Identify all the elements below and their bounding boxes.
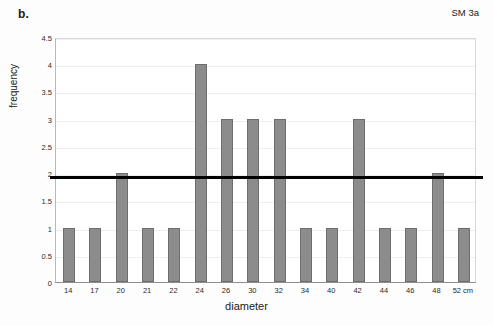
bar bbox=[221, 119, 233, 282]
x-tick-label: 34 bbox=[301, 286, 309, 295]
bar bbox=[458, 228, 470, 282]
x-tick-label: 22 bbox=[169, 286, 177, 295]
bar bbox=[300, 228, 312, 282]
panel-letter-label: b. bbox=[18, 7, 29, 21]
x-tick-label: 40 bbox=[327, 286, 335, 295]
x-tick-label: 44 bbox=[380, 286, 388, 295]
y-tick-label: 2.5 bbox=[16, 142, 52, 151]
bar bbox=[116, 173, 128, 282]
y-tick-label: 4 bbox=[16, 61, 52, 70]
series-annotation-label: SM 3a bbox=[452, 7, 479, 18]
y-tick-label: 3 bbox=[16, 115, 52, 124]
y-tick-label: 0 bbox=[16, 279, 52, 288]
x-tick-label: 26 bbox=[222, 286, 230, 295]
y-axis-tick-labels: 00.511.522.533.544.5 bbox=[12, 38, 52, 283]
x-tick-label: 30 bbox=[248, 286, 256, 295]
bar bbox=[195, 64, 207, 282]
bar bbox=[63, 228, 75, 282]
bar bbox=[168, 228, 180, 282]
bar bbox=[142, 228, 154, 282]
x-tick-label: 52 cm bbox=[453, 286, 473, 295]
y-tick-label: 0.5 bbox=[16, 251, 52, 260]
y-tick-label: 4.5 bbox=[16, 34, 52, 43]
reference-line bbox=[50, 176, 483, 179]
bar bbox=[89, 228, 101, 282]
bar bbox=[274, 119, 286, 282]
bar bbox=[247, 119, 259, 282]
x-tick-label: 48 bbox=[432, 286, 440, 295]
x-tick-label: 17 bbox=[90, 286, 98, 295]
y-tick-label: 2 bbox=[16, 170, 52, 179]
bar bbox=[353, 119, 365, 282]
y-tick-label: 1.5 bbox=[16, 197, 52, 206]
bar bbox=[432, 173, 444, 282]
x-axis-title: diameter bbox=[0, 300, 493, 312]
y-tick-label: 1 bbox=[16, 224, 52, 233]
x-axis-tick-labels: 14172021222426303234404244464852 cm bbox=[55, 286, 476, 300]
bar bbox=[405, 228, 417, 282]
y-tick-label: 3.5 bbox=[16, 88, 52, 97]
x-tick-label: 21 bbox=[143, 286, 151, 295]
x-tick-label: 20 bbox=[117, 286, 125, 295]
x-tick-label: 32 bbox=[274, 286, 282, 295]
x-tick-label: 46 bbox=[406, 286, 414, 295]
bar-series bbox=[56, 39, 475, 282]
x-tick-label: 14 bbox=[64, 286, 72, 295]
figure-panel-b: b. SM 3a frequency 00.511.522.533.544.5 … bbox=[0, 0, 493, 326]
x-tick-label: 24 bbox=[196, 286, 204, 295]
plot-area bbox=[55, 38, 476, 283]
x-tick-label: 42 bbox=[353, 286, 361, 295]
bar bbox=[326, 228, 338, 282]
bar bbox=[379, 228, 391, 282]
